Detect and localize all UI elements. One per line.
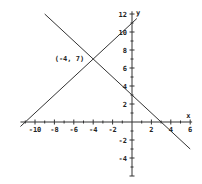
y-tick-label: 8 — [123, 47, 127, 55]
x-tick-label: 2 — [149, 126, 153, 134]
y-tick-label: -4 — [119, 155, 127, 163]
x-tick-label: -10 — [29, 126, 42, 134]
x-tick-label: -2 — [108, 126, 116, 134]
y-axis-label: y — [136, 9, 141, 17]
y-tick-label: 10 — [119, 29, 127, 37]
x-tick-label: 6 — [188, 126, 192, 134]
x-tick-label: -8 — [50, 126, 58, 134]
x-tick-label: -4 — [89, 126, 97, 134]
y-tick-label: 6 — [123, 65, 127, 73]
series-line1 — [20, 19, 136, 127]
x-tick-label: -6 — [70, 126, 78, 134]
chart: -10-8-6-4-2246-4-224681012xy(-4, 7) — [0, 0, 202, 184]
intersection-label: (-4, 7) — [55, 55, 85, 63]
y-tick-label: 12 — [119, 11, 127, 19]
x-axis-label: x — [186, 112, 191, 120]
y-tick-label: -2 — [119, 137, 127, 145]
y-tick-label: 2 — [123, 101, 127, 109]
series-line2 — [45, 14, 191, 149]
